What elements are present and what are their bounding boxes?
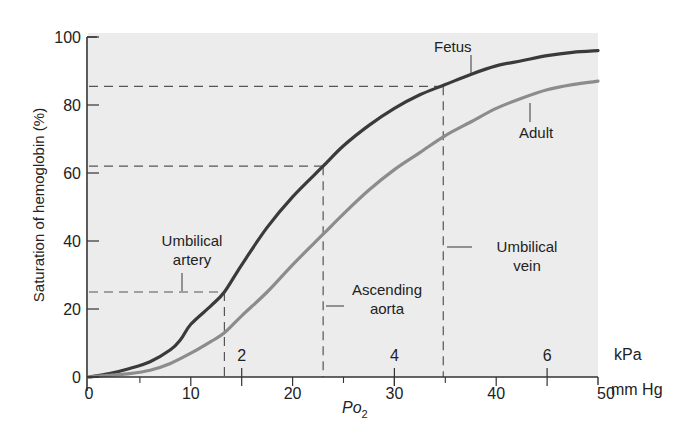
y-tick-label: 20 [63, 301, 81, 318]
x-unit-mmhg: mm Hg [611, 381, 663, 398]
y-axis-title: Saturation of hemoglobin (%) [30, 108, 47, 302]
x-tick-label: 10 [182, 385, 200, 402]
y-tick-label: 40 [63, 233, 81, 250]
annotation-ascending-aorta-line2: aorta [370, 300, 405, 317]
annotation-umbilical-artery-line2: artery [173, 251, 212, 268]
y-tick-label: 60 [63, 165, 81, 182]
x-tick-label: 40 [487, 385, 505, 402]
y-tick-label: 0 [72, 369, 81, 386]
x-axis-title: Po2 [342, 399, 368, 420]
kpa-tick-label: 2 [237, 347, 246, 364]
x-tick-label: 20 [284, 385, 302, 402]
oxygen-dissociation-chart: 02040608010001020304050246 Saturation of… [0, 0, 691, 441]
annotation-umbilical-vein-line1: Umbilical [497, 238, 558, 255]
annotation-ascending-aorta-line1: Ascending [352, 281, 422, 298]
kpa-tick-label: 4 [390, 347, 399, 364]
legend-label-adult: Adult [519, 124, 554, 141]
legend-label-fetus: Fetus [434, 38, 472, 55]
x-tick-label: 30 [386, 385, 404, 402]
x-tick-label: 0 [85, 385, 94, 402]
annotation-umbilical-artery-line1: Umbilical [162, 232, 223, 249]
kpa-tick-label: 6 [543, 347, 552, 364]
annotation-umbilical-vein-line2: vein [513, 257, 541, 274]
y-tick-label: 80 [63, 97, 81, 114]
y-tick-label: 100 [54, 29, 81, 46]
x-unit-kpa: kPa [614, 346, 642, 363]
plot-area [88, 33, 598, 377]
